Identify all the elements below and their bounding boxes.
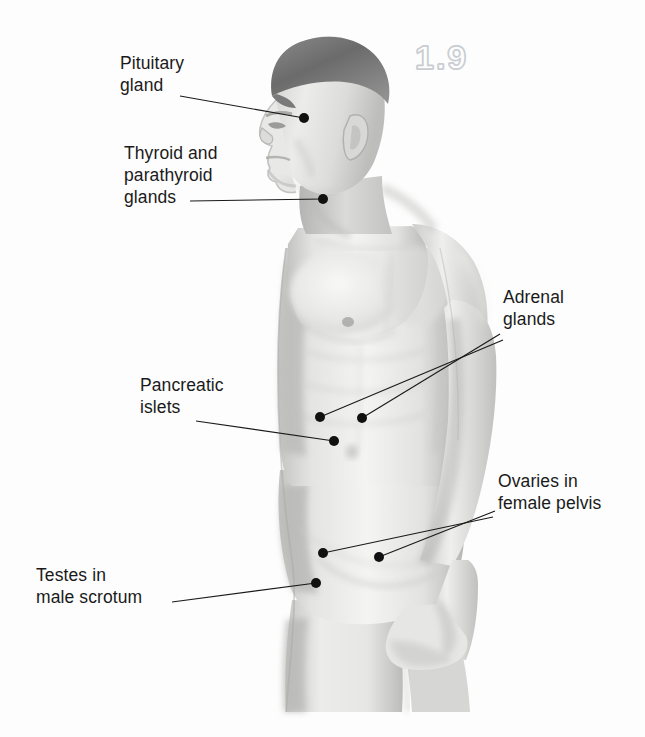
figure-number: 1.9	[415, 38, 468, 77]
callout-label-pancreatic-islets: Pancreatic islets	[140, 374, 224, 418]
callout-label-ovaries: Ovaries in female pelvis	[498, 470, 601, 514]
trapezius	[382, 188, 434, 230]
figure-body	[260, 36, 497, 712]
dot-pituitary	[299, 113, 309, 123]
callout-label-pituitary: Pituitary gland	[120, 52, 184, 96]
navel	[346, 445, 358, 459]
dot-ovary-left	[318, 548, 328, 558]
dot-thyroid	[318, 194, 328, 204]
callout-label-adrenal: Adrenal glands	[503, 286, 564, 330]
callout-label-testes: Testes in male scrotum	[36, 564, 142, 608]
dot-pancreatic	[329, 436, 339, 446]
callout-label-thyroid-parathyroid: Thyroid and parathyroid glands	[124, 142, 218, 208]
endocrine-figure-panel: 1.9 Pituitary gland Thyroid and parathyr…	[0, 0, 645, 737]
anatomical-illustration	[0, 0, 645, 737]
dot-adrenal-right	[357, 413, 367, 423]
dot-ovary-right	[374, 552, 384, 562]
dot-adrenal-left	[315, 412, 325, 422]
nipple	[342, 317, 354, 327]
dot-testes	[311, 578, 321, 588]
